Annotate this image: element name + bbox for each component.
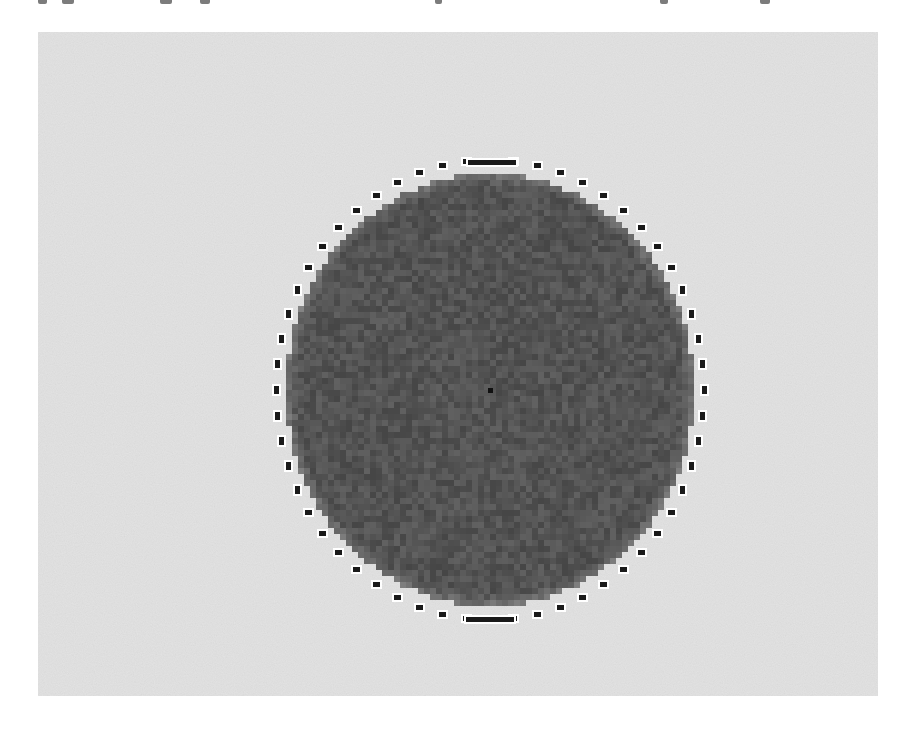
figure xyxy=(38,32,878,696)
contour-point xyxy=(279,437,284,445)
contour-point xyxy=(286,462,291,470)
contour-point xyxy=(600,193,607,198)
contour-point xyxy=(689,310,694,318)
contour-point xyxy=(557,170,564,175)
contour-point xyxy=(416,170,423,175)
contour-point xyxy=(274,386,279,394)
contour-point xyxy=(319,531,326,536)
contour-point xyxy=(680,286,685,294)
contour-point xyxy=(295,286,300,294)
contour-point xyxy=(700,412,705,420)
contour-point xyxy=(335,550,342,555)
contour-point xyxy=(466,617,514,622)
contour-point xyxy=(373,582,380,587)
contour-point xyxy=(279,335,284,343)
contour-point xyxy=(702,386,707,394)
contour-point xyxy=(394,180,401,185)
contour-point xyxy=(579,595,586,600)
contour-point xyxy=(319,244,326,249)
contour-point xyxy=(638,225,645,230)
contour-point xyxy=(700,360,705,368)
contour-point xyxy=(696,335,701,343)
contour-point xyxy=(600,582,607,587)
contour-point xyxy=(620,208,627,213)
contour-point xyxy=(689,462,694,470)
contour-point xyxy=(275,412,280,420)
contour-point xyxy=(353,208,360,213)
text-fragment xyxy=(200,0,210,4)
contour-point xyxy=(638,550,645,555)
contour-point xyxy=(305,510,312,515)
contour-point xyxy=(620,567,627,572)
contour-point xyxy=(468,160,516,165)
contour-point xyxy=(305,265,312,270)
contour-point xyxy=(534,163,541,168)
center-marker-icon xyxy=(488,388,493,393)
contour-point xyxy=(654,244,661,249)
contour-point xyxy=(439,612,446,617)
text-fragment xyxy=(38,0,47,4)
contour-point xyxy=(295,486,300,494)
text-fragment xyxy=(435,0,442,4)
contour-point xyxy=(286,310,291,318)
clipped-text-line xyxy=(0,0,916,4)
contour-point xyxy=(373,193,380,198)
contour-point xyxy=(579,180,586,185)
contour-point xyxy=(680,486,685,494)
contour-point xyxy=(275,360,280,368)
text-fragment xyxy=(660,0,668,4)
contour-point xyxy=(353,567,360,572)
contour-point xyxy=(654,531,661,536)
contour-point xyxy=(668,510,675,515)
contour-point xyxy=(394,595,401,600)
contour-point xyxy=(335,225,342,230)
text-fragment xyxy=(760,0,770,4)
contour-point xyxy=(668,265,675,270)
contour-point xyxy=(557,605,564,610)
contour-point xyxy=(696,437,701,445)
contour-point xyxy=(416,605,423,610)
text-fragment xyxy=(160,0,172,4)
text-fragment xyxy=(62,0,74,4)
contour-point xyxy=(439,163,446,168)
contour-point xyxy=(534,612,541,617)
